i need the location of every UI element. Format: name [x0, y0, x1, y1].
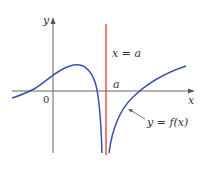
x-axis-label: x	[188, 94, 195, 107]
curve-right-branch	[109, 66, 186, 153]
asymptote-label: x = a	[112, 47, 141, 60]
curve-leader-line	[130, 110, 145, 119]
a-tick-label: a	[113, 78, 120, 91]
y-axis-label: y	[42, 14, 50, 27]
graph-canvas: y x 0 x = a a y = f(x)	[0, 0, 203, 169]
x-axis-arrow-icon	[188, 89, 195, 94]
leader-arrow-icon	[128, 109, 133, 113]
curve-label: y = f(x)	[146, 116, 188, 129]
origin-label: 0	[43, 94, 49, 105]
curve-left-branch	[12, 65, 102, 153]
y-axis-arrow-icon	[51, 17, 56, 24]
graph-figure: y x 0 x = a a y = f(x)	[0, 0, 203, 169]
